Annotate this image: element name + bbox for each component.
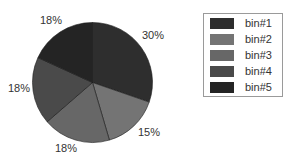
legend: bin#1 bin#2 bin#3 bin#4 bin#5 xyxy=(203,13,283,97)
legend-label-bin1: bin#1 xyxy=(245,17,272,30)
legend-label-bin3: bin#3 xyxy=(245,49,272,62)
legend-label-bin2: bin#2 xyxy=(245,33,272,46)
legend-label-bin5: bin#5 xyxy=(245,81,272,94)
legend-swatch-bin3 xyxy=(210,50,234,61)
slice-label-bin2: 15% xyxy=(138,126,160,138)
legend-item-bin5: bin#5 xyxy=(210,82,280,93)
legend-item-bin3: bin#3 xyxy=(210,50,280,61)
slice-label-bin5: 18% xyxy=(40,14,62,26)
legend-item-bin1: bin#1 xyxy=(210,18,280,29)
slice-label-bin3: 18% xyxy=(55,142,77,154)
legend-swatch-bin5 xyxy=(210,82,234,93)
legend-label-bin4: bin#4 xyxy=(245,65,272,78)
legend-swatch-bin1 xyxy=(210,18,234,29)
legend-item-bin2: bin#2 xyxy=(210,34,280,45)
slice-label-bin4: 18% xyxy=(8,82,30,94)
legend-swatch-bin2 xyxy=(210,34,234,45)
legend-swatch-bin4 xyxy=(210,66,234,77)
pie-slices xyxy=(33,23,153,143)
legend-item-bin4: bin#4 xyxy=(210,66,280,77)
slice-label-bin1: 30% xyxy=(142,29,164,41)
